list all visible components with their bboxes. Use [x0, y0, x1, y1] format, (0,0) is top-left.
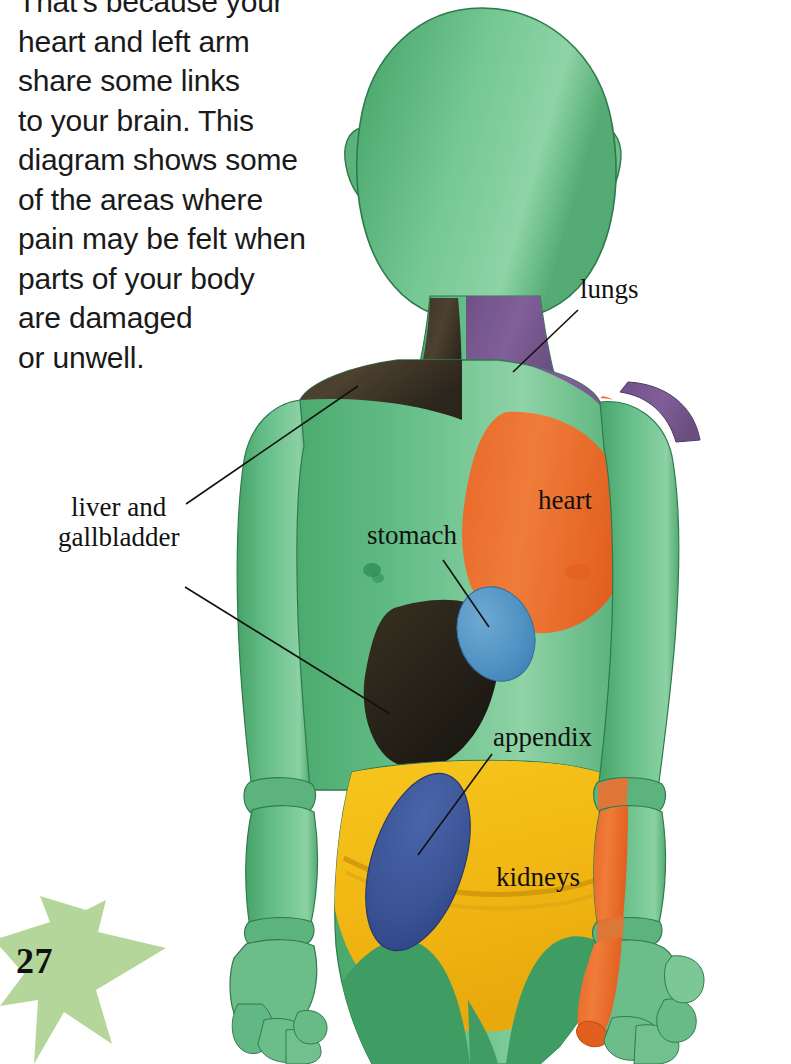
label-heart: heart: [538, 485, 592, 515]
label-liver-and-gallbladder: liver and gallbladder: [58, 492, 179, 552]
stripe-heart-arm-forearm: [594, 806, 628, 928]
label-appendix: appendix: [493, 722, 592, 752]
body-paragraph: That's because your heart and left arm s…: [18, 0, 362, 377]
label-lungs: lungs: [580, 274, 639, 304]
label-kidneys: kidneys: [496, 862, 580, 892]
label-stomach: stomach: [367, 520, 457, 550]
book-page: 27 That's because your heart and left ar…: [0, 0, 791, 1064]
page-number: 27: [16, 940, 53, 982]
